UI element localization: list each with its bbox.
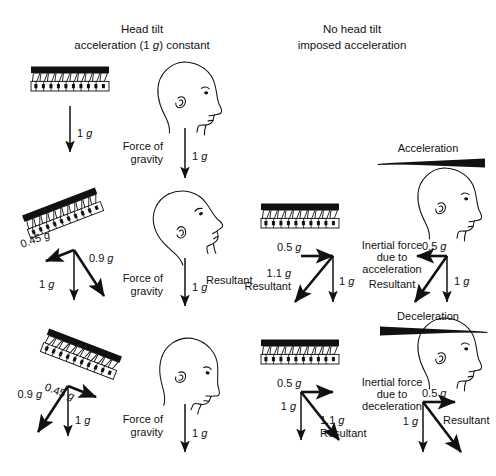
otolith-organ	[261, 340, 339, 365]
panel-right-accel-annotation: Inertial force due to acceleration Resul…	[362, 239, 423, 290]
head-profile	[158, 62, 222, 135]
column-header-right: No head tilt imposed acceleration	[298, 23, 407, 51]
panel-left-tiltforward-head: Force of gravity 1 g Resultant	[123, 179, 253, 306]
label-1g: 1 g	[39, 278, 55, 290]
label-force-of-gravity-line1: Force of	[123, 413, 164, 425]
label-1g: 1 g	[192, 427, 208, 439]
label-resultant: Resultant	[369, 278, 415, 290]
vector-shear-045g	[46, 250, 74, 261]
otolith-organ-tilted	[40, 329, 122, 380]
label-resultant: Resultant	[245, 280, 291, 292]
header-left-line1: Head tilt	[121, 23, 164, 35]
vector-resultant	[423, 402, 461, 452]
label-11g: 1.1 g	[320, 414, 345, 426]
label-11g: 1.1 g	[267, 267, 292, 279]
panel-right-accel-head: 0.5 g 1 g	[415, 168, 482, 302]
label-1g: 1 g	[403, 415, 419, 427]
head-profile-tilted	[144, 179, 231, 271]
label-resultant: Resultant	[443, 414, 489, 426]
header-left-line2: acceleration (1 g) constant	[74, 39, 210, 51]
header-right-line1: No head tilt	[323, 23, 382, 35]
panel-right-accel-otolith: 0.5 g 1.1 g Resultant 1 g	[245, 204, 356, 303]
head-profile	[418, 168, 482, 241]
label-force-of-gravity-line1: Force of	[123, 140, 164, 152]
label-inertial-accel-line3: acceleration	[362, 263, 421, 275]
panel-left-tiltback-head: Force of gravity 1 g	[123, 333, 229, 452]
label-1g: 1 g	[77, 127, 93, 139]
label-force-of-gravity-line2: gravity	[131, 426, 164, 438]
label-05g: 0.5 g	[277, 377, 302, 389]
label-1g: 1 g	[454, 275, 470, 287]
panel-left-upright-head: Force of gravity 1 g	[123, 62, 222, 178]
label-1g: 1 g	[192, 150, 208, 162]
label-inertial-decel-line3: deceleration	[362, 400, 422, 412]
panel-left-upright-otolith: 1 g	[31, 67, 109, 153]
label-force-of-gravity-line1: Force of	[123, 272, 164, 284]
head-profile-tilted	[152, 333, 229, 417]
label-inertial-decel-line2: due to	[377, 388, 408, 400]
label-09g: 0.9 g	[89, 252, 114, 264]
otolith-organ-tilted	[22, 188, 104, 239]
label-05g: 0.5 g	[422, 387, 447, 399]
acceleration-indicator: Acceleration	[378, 142, 485, 168]
label-inertial-decel-line1: Inertial force	[362, 376, 423, 388]
label-acceleration: Acceleration	[398, 142, 459, 154]
panel-right-decel-otolith: 0.5 g 1 g 1.1 g Resultant	[261, 340, 366, 441]
label-1g: 1 g	[281, 400, 297, 412]
label-inertial-accel-line2: due to	[377, 251, 408, 263]
label-1g: 1 g	[75, 414, 91, 426]
label-05g: 0.5 g	[277, 241, 302, 253]
panel-right-decel-annotation: Inertial force due to deceleration	[362, 376, 423, 412]
label-1g: 1 g	[339, 275, 355, 287]
label-force-of-gravity-line2: gravity	[131, 285, 164, 297]
label-inertial-accel-line1: Inertial force	[362, 239, 423, 251]
label-deceleration: Deceleration	[397, 310, 459, 322]
label-09g: 0.9 g	[18, 388, 43, 400]
otolith-figure: Head tilt acceleration (1 g) constant No…	[0, 0, 496, 476]
label-resultant: Resultant	[320, 427, 366, 439]
panel-left-tiltback-otolith: 0.45 g 0.9 g 1 g	[18, 329, 122, 436]
column-header-left: Head tilt acceleration (1 g) constant	[74, 23, 210, 51]
label-05g: 0.5 g	[422, 240, 447, 252]
otolith-organ	[261, 204, 339, 229]
otolith-organ	[31, 67, 109, 92]
panel-left-tiltforward-otolith: 0.45 g 0.9 g 1 g	[19, 188, 115, 300]
label-force-of-gravity-line2: gravity	[131, 153, 164, 165]
vector-resultant-11g	[295, 256, 333, 302]
header-right-line2: imposed acceleration	[298, 39, 407, 51]
